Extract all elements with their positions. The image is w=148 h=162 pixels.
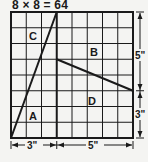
dim-right-bottom: 3" (135, 109, 146, 120)
dim-right-top: 5" (135, 50, 146, 61)
region-label-d: D (88, 95, 96, 107)
region-label-b: B (90, 46, 98, 58)
arrow-right-icon (50, 143, 56, 148)
region-label-a: A (29, 110, 37, 122)
dim-bottom-left: 3" (27, 140, 38, 151)
arrow-left-icon (58, 143, 64, 148)
dissection-diagram: C B D A 5" 3" 3" 5" (0, 0, 148, 162)
arrow-right-icon (126, 143, 132, 148)
arrow-up-icon (138, 13, 143, 19)
arrow-down-icon (138, 84, 143, 90)
arrow-up-icon (138, 92, 143, 98)
dim-bottom-right: 5" (88, 140, 99, 151)
arrow-left-icon (12, 143, 18, 148)
region-label-c: C (29, 30, 37, 42)
arrow-down-icon (138, 131, 143, 137)
